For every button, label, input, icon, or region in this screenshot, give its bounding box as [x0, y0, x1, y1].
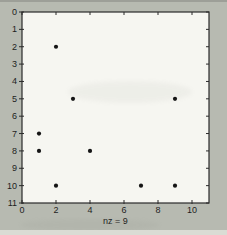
y-tick-label: 8 [12, 146, 17, 156]
y-tick-label: 4 [12, 76, 17, 86]
y-tick-label: 7 [12, 129, 17, 139]
data-point [173, 97, 177, 101]
x-tick-label: 8 [155, 205, 160, 215]
scan-bottom-strip [0, 230, 227, 235]
y-tick-label: 2 [12, 42, 17, 52]
y-tick-label: 11 [8, 198, 17, 208]
data-point [54, 184, 58, 188]
plot-background [22, 12, 209, 203]
x-tick-label: 10 [187, 205, 197, 215]
data-point [37, 131, 41, 135]
data-point [71, 97, 75, 101]
x-tick-label: 4 [87, 205, 92, 215]
y-tick-label: 5 [12, 94, 17, 104]
data-point [54, 45, 58, 49]
x-tick-label: 2 [53, 205, 58, 215]
data-point [88, 149, 92, 153]
y-tick-label: 3 [12, 59, 17, 69]
y-tick-label: 0 [12, 7, 17, 17]
x-tick-label: 6 [121, 205, 126, 215]
spy-plot-figure: 024681001234567891011nz = 9 [0, 0, 227, 235]
y-tick-label: 9 [12, 163, 17, 173]
y-tick-label: 10 [7, 181, 17, 191]
data-point [173, 184, 177, 188]
scan-top-edge [0, 0, 227, 2]
x-axis-label: nz = 9 [103, 216, 128, 226]
y-tick-label: 6 [12, 111, 17, 121]
data-point [37, 149, 41, 153]
x-tick-label: 0 [19, 205, 24, 215]
plot-canvas: 024681001234567891011nz = 9 [0, 0, 227, 235]
y-tick-label: 1 [12, 24, 17, 34]
data-point [139, 184, 143, 188]
